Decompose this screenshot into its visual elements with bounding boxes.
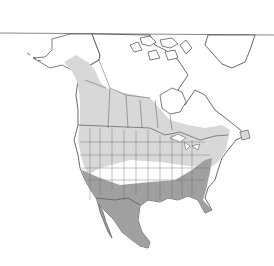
north-america-map: [0, 0, 274, 266]
range-map: [0, 0, 274, 266]
range-newfoundland: [240, 130, 250, 140]
greenland: [205, 35, 255, 68]
